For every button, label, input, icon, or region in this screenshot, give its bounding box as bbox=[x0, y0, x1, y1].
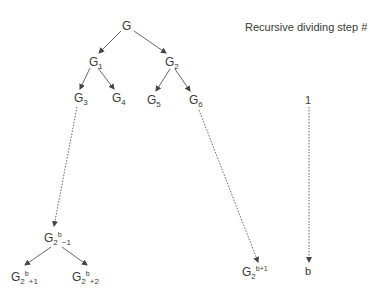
node-sub: 2 bbox=[53, 238, 57, 247]
node-sup: b bbox=[25, 270, 29, 277]
edge-g1-g3 bbox=[80, 68, 90, 89]
node-tail: +1 bbox=[29, 277, 38, 286]
node-g2b-plus1: G2b+1 bbox=[11, 271, 38, 285]
node-g: G bbox=[122, 20, 131, 32]
node-g3: G3 bbox=[74, 92, 88, 106]
node-sub: 2 bbox=[20, 277, 24, 286]
node-g6-base: G bbox=[189, 93, 198, 107]
node-g2b-plus2: G2b+2 bbox=[72, 271, 99, 285]
node-sub: 2 bbox=[251, 272, 255, 281]
step-first-label: 1 bbox=[305, 94, 311, 106]
edge-g2-g5 bbox=[156, 69, 170, 91]
node-g1: G1 bbox=[89, 56, 103, 70]
step-last-label: b bbox=[305, 265, 311, 277]
node-sup: b bbox=[58, 231, 62, 238]
edge-g2b-1-g2b+1 bbox=[25, 247, 51, 265]
node-g6: G6 bbox=[189, 94, 203, 108]
node-tail: +2 bbox=[90, 277, 99, 286]
node-sub: 2 bbox=[81, 277, 85, 286]
edge-g6-g2bplus1 bbox=[199, 110, 258, 262]
node-base: G bbox=[72, 270, 81, 284]
step-axis-title: Recursive dividing step # bbox=[245, 21, 367, 33]
edge-g-g2 bbox=[134, 31, 166, 53]
node-g2b-minus1: G2b−1 bbox=[44, 232, 71, 246]
node-sup: b+1 bbox=[256, 265, 268, 272]
edge-g1-g4 bbox=[98, 68, 114, 89]
node-base: G bbox=[44, 231, 53, 245]
node-g1-sub: 1 bbox=[98, 62, 102, 71]
diagram-edges bbox=[0, 0, 370, 302]
node-g4: G4 bbox=[112, 92, 126, 106]
node-g3-base: G bbox=[74, 91, 83, 105]
node-g5-sub: 5 bbox=[156, 100, 160, 109]
edge-g2b-1-g2b+2 bbox=[62, 247, 87, 265]
edge-g3-g2b-1 bbox=[54, 107, 77, 226]
node-g3-sub: 3 bbox=[83, 98, 87, 107]
node-g6-sub: 6 bbox=[198, 100, 202, 109]
node-g4-base: G bbox=[112, 91, 121, 105]
node-g2-bplus1: G2b+1 bbox=[242, 266, 268, 280]
node-g2-base: G bbox=[165, 55, 174, 69]
node-base: G bbox=[11, 270, 20, 284]
node-g5-base: G bbox=[147, 93, 156, 107]
edge-g2-g6 bbox=[175, 69, 190, 91]
node-g2: G2 bbox=[165, 56, 179, 70]
node-sup: b bbox=[86, 270, 90, 277]
node-g5: G5 bbox=[147, 94, 161, 108]
node-tail: −1 bbox=[62, 238, 71, 247]
node-g-label: G bbox=[122, 19, 131, 33]
edge-g-g1 bbox=[99, 31, 121, 53]
node-g4-sub: 4 bbox=[121, 98, 125, 107]
node-g1-base: G bbox=[89, 55, 98, 69]
node-g2-sub: 2 bbox=[174, 62, 178, 71]
node-base: G bbox=[242, 265, 251, 279]
